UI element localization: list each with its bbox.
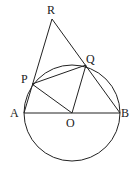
label-o: O bbox=[66, 116, 75, 130]
geometry-diagram: R P Q A O B bbox=[0, 0, 135, 174]
label-r: R bbox=[47, 3, 55, 17]
segment-po bbox=[32, 84, 72, 113]
label-p: P bbox=[21, 72, 28, 86]
segment-ar bbox=[24, 19, 52, 113]
label-a: A bbox=[10, 106, 19, 120]
label-q: Q bbox=[86, 52, 95, 66]
segment-oq bbox=[72, 65, 86, 113]
label-b: B bbox=[121, 106, 129, 120]
segment-pq bbox=[32, 65, 86, 84]
